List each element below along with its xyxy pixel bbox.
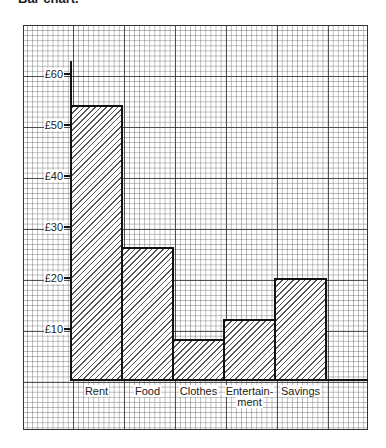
bar-clothes <box>172 339 225 381</box>
y-tick-label: £20 <box>44 272 64 284</box>
x-category-label: Savings <box>275 386 326 397</box>
bar-food <box>121 247 174 381</box>
y-tick-label: £60 <box>44 68 64 80</box>
y-tick-label: £40 <box>44 170 64 182</box>
y-axis-line <box>70 61 72 381</box>
y-tick-label: £10 <box>44 323 64 335</box>
y-tick-label: £30 <box>44 221 64 233</box>
bar-savings <box>274 278 327 381</box>
x-axis-line <box>70 379 368 381</box>
y-tick-label: £50 <box>44 119 64 131</box>
x-category-label: Food <box>122 386 173 397</box>
x-category-label: Clothes <box>173 386 224 397</box>
x-category-label: Rent <box>71 386 122 397</box>
x-category-label: Entertain-ment <box>224 386 275 408</box>
bar-entertain <box>223 319 276 381</box>
chart-title: Bar chart. <box>18 0 79 6</box>
bar-rent <box>70 105 123 381</box>
